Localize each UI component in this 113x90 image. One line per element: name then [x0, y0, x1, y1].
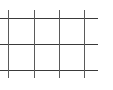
grid-vertical-line: [34, 10, 35, 78]
grid-vertical-line: [59, 10, 60, 78]
grid-vertical-line: [8, 10, 9, 78]
grid-vertical-line: [84, 10, 85, 78]
